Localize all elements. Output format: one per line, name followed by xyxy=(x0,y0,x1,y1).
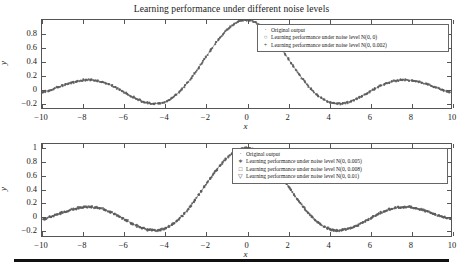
legend-label: Learning performance under noise level N… xyxy=(246,173,359,180)
x-tick xyxy=(453,144,454,148)
x-tick xyxy=(124,144,125,148)
y-tick xyxy=(447,104,451,105)
dot-icon: · xyxy=(235,151,246,158)
y-tick-label: 0.2 xyxy=(26,197,37,207)
x-tick-label: 10 xyxy=(448,112,457,122)
y-axis-label-top: y xyxy=(0,61,8,65)
x-tick xyxy=(206,20,207,24)
x-tick-label: −10 xyxy=(34,240,47,250)
x-tick xyxy=(371,232,372,236)
x-tick xyxy=(83,232,84,236)
x-tick-label: 2 xyxy=(285,240,289,250)
x-tick-label: −4 xyxy=(160,240,169,250)
legend-label: Original output xyxy=(271,27,305,34)
y-tick-label: 0.8 xyxy=(26,156,37,166)
x-tick-label: −8 xyxy=(78,112,87,122)
x-tick xyxy=(206,232,207,236)
x-tick-label: 4 xyxy=(327,240,331,250)
x-tick-label: −6 xyxy=(119,240,128,250)
plot-area-bottom: ·Original output∗Learning performance un… xyxy=(41,143,452,237)
y-tick-label: 0.6 xyxy=(26,42,37,52)
asterisk-icon: ∗ xyxy=(235,158,246,165)
x-tick xyxy=(412,104,413,108)
x-tick xyxy=(453,232,454,236)
x-axis-label-top: x xyxy=(244,121,248,131)
x-tick xyxy=(206,144,207,148)
y-axis-tick-labels-bottom: −0.200.20.40.60.81 xyxy=(5,143,37,237)
x-tick xyxy=(248,104,249,108)
legend-top: ·Original output○Learning performance un… xyxy=(257,24,449,52)
x-tick xyxy=(412,232,413,236)
x-tick xyxy=(83,20,84,24)
x-tick xyxy=(206,104,207,108)
plus-icon: + xyxy=(260,42,271,49)
x-tick xyxy=(453,20,454,24)
y-tick xyxy=(447,231,451,232)
y-tick-label: 0.2 xyxy=(26,70,37,80)
x-tick xyxy=(165,232,166,236)
x-tick xyxy=(330,104,331,108)
y-tick-label: 0 xyxy=(33,211,37,221)
y-tick xyxy=(42,203,46,204)
x-tick-label: −2 xyxy=(201,112,210,122)
legend-item: □Learning performance under noise level … xyxy=(235,166,444,173)
x-tick-label: 4 xyxy=(327,112,331,122)
x-tick xyxy=(330,232,331,236)
y-tick-label: 0.4 xyxy=(26,56,37,66)
x-tick xyxy=(83,144,84,148)
x-tick-label: −8 xyxy=(78,240,87,250)
chart-panel-bottom: ·Original output∗Learning performance un… xyxy=(0,135,463,247)
x-tick-label: 6 xyxy=(368,240,372,250)
y-tick xyxy=(42,162,46,163)
y-tick xyxy=(42,190,46,191)
y-tick-label: −0.2 xyxy=(22,98,37,108)
y-tick xyxy=(42,34,46,35)
y-tick-label: 0 xyxy=(33,84,37,94)
legend-item: ·Original output xyxy=(260,27,445,34)
y-axis-tick-labels-top: −0.200.20.40.60.8 xyxy=(5,19,37,109)
figure-page: Learning performance under different noi… xyxy=(0,0,463,270)
y-tick-label: 1 xyxy=(33,142,37,152)
legend-item: ∗Learning performance under noise level … xyxy=(235,158,444,165)
x-tick xyxy=(42,104,43,108)
y-tick xyxy=(42,76,46,77)
x-tick xyxy=(83,104,84,108)
open-down-triangle-icon: ▽ xyxy=(235,173,246,180)
x-tick-label: 8 xyxy=(409,112,413,122)
y-tick xyxy=(42,48,46,49)
x-tick-label: −2 xyxy=(201,240,210,250)
chart-title: Learning performance under different noi… xyxy=(0,4,463,14)
legend-item: ▽Learning performance under noise level … xyxy=(235,173,444,180)
y-tick xyxy=(42,217,46,218)
x-tick xyxy=(165,144,166,148)
y-tick xyxy=(447,90,451,91)
y-tick xyxy=(42,90,46,91)
x-tick xyxy=(248,20,249,24)
x-tick xyxy=(124,20,125,24)
legend-label: Learning performance under noise level N… xyxy=(271,34,377,41)
legend-item: +Learning performance under noise level … xyxy=(260,42,445,49)
legend-bottom: ·Original output∗Learning performance un… xyxy=(232,148,448,184)
page-bottom-rule xyxy=(14,259,449,262)
open-square-icon: □ xyxy=(235,166,246,173)
y-tick xyxy=(42,176,46,177)
y-tick-label: 0.8 xyxy=(26,28,37,38)
legend-label: Learning performance under noise level N… xyxy=(246,166,362,173)
y-axis-label-bottom: y xyxy=(0,187,8,191)
y-tick xyxy=(447,217,451,218)
y-tick xyxy=(447,203,451,204)
x-tick xyxy=(371,104,372,108)
y-tick-label: 0.4 xyxy=(26,184,37,194)
y-tick-label: 0.6 xyxy=(26,170,37,180)
x-tick-label: 8 xyxy=(409,240,413,250)
x-tick xyxy=(42,232,43,236)
legend-item: ·Original output xyxy=(235,151,444,158)
legend-label: Learning performance under noise level N… xyxy=(246,158,362,165)
legend-item: ○Learning performance under noise level … xyxy=(260,34,445,41)
legend-label: Learning performance under noise level N… xyxy=(271,42,387,49)
x-axis-label-bottom: x xyxy=(244,249,248,259)
y-tick xyxy=(447,76,451,77)
y-tick xyxy=(42,148,46,149)
chart-panel-top: Learning performance under different noi… xyxy=(0,0,463,135)
y-tick-label: −0.2 xyxy=(22,225,37,235)
